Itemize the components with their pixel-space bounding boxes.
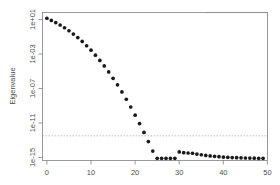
data-point <box>80 40 84 44</box>
data-point <box>261 156 265 160</box>
y-tick-label: 1e+01 <box>28 9 37 30</box>
data-point <box>155 156 159 160</box>
x-tick-label: 40 <box>219 168 227 177</box>
data-point <box>160 156 164 160</box>
data-point <box>111 76 115 80</box>
data-point <box>169 156 173 160</box>
data-point <box>164 156 168 160</box>
data-point <box>142 131 146 135</box>
x-tick-label: 10 <box>87 168 95 177</box>
data-point <box>222 155 226 159</box>
data-point <box>235 156 239 160</box>
data-point <box>199 153 203 157</box>
plot-frame <box>43 13 268 161</box>
data-point <box>133 113 137 117</box>
data-point <box>72 32 76 36</box>
x-tick-label: 30 <box>175 168 183 177</box>
data-point <box>54 21 58 25</box>
data-point <box>89 48 93 52</box>
x-axis-tick-labels: 0 10 20 30 40 50 <box>45 168 272 177</box>
data-point <box>124 97 128 101</box>
scree-plot-figure: 1e+01 1e-03 1e-07 1e-11 1e-15 Eigenvalue… <box>0 0 280 185</box>
data-point <box>208 154 212 158</box>
data-point <box>182 151 186 155</box>
data-point <box>239 156 243 160</box>
data-point <box>102 64 106 68</box>
data-point <box>67 29 71 33</box>
data-point <box>63 26 67 30</box>
data-point <box>195 152 199 156</box>
data-point <box>138 122 142 126</box>
data-point <box>248 156 252 160</box>
data-point <box>191 151 195 155</box>
data-point <box>94 53 98 57</box>
data-point <box>186 151 190 155</box>
x-tick-label: 20 <box>131 168 139 177</box>
y-tick-label: 1e-03 <box>28 44 37 63</box>
data-point <box>252 156 256 160</box>
data-point <box>98 59 102 63</box>
data-point <box>58 23 62 27</box>
data-point <box>257 156 261 160</box>
data-point <box>151 149 155 153</box>
data-point <box>204 154 208 158</box>
data-point-group <box>45 16 265 160</box>
y-axis-tick-labels: 1e+01 1e-03 1e-07 1e-11 1e-15 <box>28 9 37 167</box>
data-point <box>226 156 230 160</box>
y-axis-title: Eigenvalue <box>8 67 17 104</box>
data-point <box>213 155 217 159</box>
data-point <box>177 150 181 154</box>
data-point <box>45 16 49 20</box>
data-point <box>173 156 177 160</box>
y-axis-ticks <box>39 20 43 158</box>
x-axis-ticks <box>47 161 268 165</box>
data-point <box>116 83 120 87</box>
data-point <box>120 90 124 94</box>
x-tick-label: 50 <box>263 168 271 177</box>
data-point <box>217 155 221 159</box>
y-tick-label: 1e-15 <box>28 148 37 167</box>
y-tick-label: 1e-07 <box>28 79 37 98</box>
eigenvalue-decay-chart: 1e+01 1e-03 1e-07 1e-11 1e-15 Eigenvalue… <box>0 0 280 185</box>
data-point <box>107 70 111 74</box>
data-point <box>230 156 234 160</box>
data-point <box>76 36 80 40</box>
y-tick-label: 1e-11 <box>28 114 37 133</box>
data-point <box>129 105 133 109</box>
x-tick-label: 0 <box>45 168 49 177</box>
data-point <box>147 140 151 144</box>
data-point <box>49 19 53 23</box>
data-point <box>244 156 248 160</box>
data-point <box>85 44 89 48</box>
